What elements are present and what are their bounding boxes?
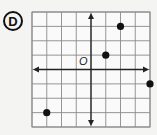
coordinate-plane: O <box>0 0 157 135</box>
data-point <box>43 109 50 116</box>
data-point <box>102 52 109 59</box>
data-point <box>117 23 124 30</box>
origin-label: O <box>79 55 88 67</box>
data-point <box>146 80 153 87</box>
